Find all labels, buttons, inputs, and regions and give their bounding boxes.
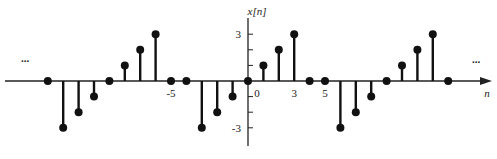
right-continuation-mark: ... bbox=[472, 53, 481, 65]
stem-marker bbox=[367, 93, 375, 101]
y-axis-label: x[n] bbox=[247, 5, 267, 17]
stem-marker bbox=[59, 124, 67, 132]
x-tick-label: 3 bbox=[291, 87, 297, 99]
x-tick-label: 5 bbox=[322, 87, 328, 99]
stem-marker bbox=[152, 30, 160, 38]
left-continuation-mark: ... bbox=[21, 52, 30, 64]
stem-marker bbox=[336, 124, 344, 132]
stem-marker bbox=[290, 30, 298, 38]
x-axis-arrow-icon bbox=[480, 77, 492, 85]
stem-marker bbox=[105, 77, 113, 85]
y-tick-label: 3 bbox=[236, 28, 242, 40]
plot-canvas: -50353-3x[n]n...... bbox=[0, 0, 497, 159]
stem-marker bbox=[136, 46, 144, 54]
stem-marker bbox=[90, 93, 98, 101]
stem-marker bbox=[352, 108, 360, 116]
stem-marker bbox=[198, 124, 206, 132]
x-tick-label: 0 bbox=[254, 87, 260, 99]
stem-marker bbox=[398, 61, 406, 69]
x-axis-label: n bbox=[484, 87, 490, 99]
stem-marker bbox=[121, 61, 129, 69]
stem-marker bbox=[275, 46, 283, 54]
stem-marker bbox=[75, 108, 83, 116]
stem-marker bbox=[306, 77, 314, 85]
stem-marker bbox=[213, 108, 221, 116]
stem-marker bbox=[167, 77, 175, 85]
stem-plot: -50353-3x[n]n...... bbox=[0, 0, 497, 159]
stem-marker bbox=[229, 93, 237, 101]
x-tick-label: -5 bbox=[166, 87, 176, 99]
stem-marker bbox=[259, 61, 267, 69]
labels: -50353-3x[n]n...... bbox=[21, 5, 490, 134]
stem-marker bbox=[429, 30, 437, 38]
stem-marker bbox=[44, 77, 52, 85]
stem-marker bbox=[182, 77, 190, 85]
stem-marker bbox=[244, 77, 252, 85]
stem-marker bbox=[413, 46, 421, 54]
stem-marker bbox=[444, 77, 452, 85]
stem-marker bbox=[383, 77, 391, 85]
stem-marker bbox=[321, 77, 329, 85]
y-tick-label: -3 bbox=[232, 122, 242, 134]
